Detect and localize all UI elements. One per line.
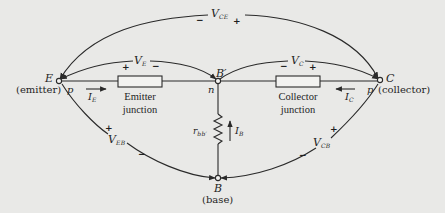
vce-arc-left (60, 15, 208, 79)
base-terminal (215, 175, 220, 180)
vcb-plus: + (330, 125, 338, 134)
base-letter: B (214, 183, 222, 194)
vcb-minus: − (299, 151, 307, 160)
emitter-junction-label: Emitter junction (116, 92, 164, 115)
veb-minus: − (138, 150, 146, 159)
vc-minus: − (280, 62, 288, 71)
vce-minus: − (196, 16, 204, 25)
collector-letter: C (386, 73, 394, 84)
emitter-letter: E (45, 73, 53, 84)
ve-plus: + (122, 63, 130, 72)
circuit-diagram (0, 0, 445, 213)
ve-label: VE (134, 55, 147, 67)
vcb-label: VCB (313, 137, 331, 149)
collector-current-label: IC (345, 92, 354, 103)
vc-plus: + (309, 63, 317, 72)
emitter-terminal (56, 78, 61, 83)
emitter-junction-box (118, 76, 162, 87)
base-resistor-zigzag (214, 114, 222, 144)
emitter-current-label: IE (88, 92, 97, 103)
collector-junction-label: Collector junction (270, 92, 326, 115)
base-name: (base) (202, 195, 233, 205)
vc-label: VC (291, 55, 304, 67)
veb-plus: + (105, 124, 113, 133)
emitter-name: (emitter) (16, 85, 61, 95)
vce-plus: + (233, 17, 241, 26)
ve-minus: − (152, 62, 160, 71)
internal-base-letter: B′ (216, 68, 227, 79)
veb-label: VEB (108, 134, 125, 146)
collector-region: p (367, 85, 373, 95)
base-current-label: IB (235, 126, 244, 137)
collector-terminal (377, 77, 382, 82)
base-resistor-label: rbb′ (193, 127, 207, 137)
vce-label: VCE (211, 8, 229, 20)
collector-junction-box (276, 76, 320, 87)
emitter-region: p (67, 85, 73, 95)
collector-name: (collector) (378, 85, 430, 95)
internal-base-region: n (208, 85, 214, 95)
